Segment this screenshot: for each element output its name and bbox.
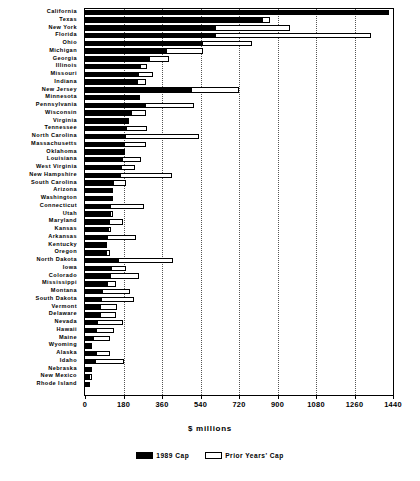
bar-segment-prior-years-cap: [96, 351, 110, 356]
bar-segment-1989-cap: [85, 33, 215, 38]
x-tick: [316, 396, 317, 399]
x-tick: [393, 396, 394, 399]
bar-segment-prior-years-cap: [202, 41, 252, 46]
bar-segment-1989-cap: [85, 320, 97, 325]
bar-segment-1989-cap: [85, 219, 109, 224]
bar-segment-1989-cap: [85, 87, 191, 92]
bar-segment-prior-years-cap: [262, 17, 270, 22]
category-label: New Hampshire: [0, 171, 80, 179]
bar-segment-prior-years-cap: [97, 320, 124, 325]
category-label: Maine: [0, 334, 80, 342]
bar-row: [85, 87, 393, 95]
x-tick-label: 1080: [307, 400, 325, 409]
category-label: Alaska: [0, 349, 80, 357]
bar-segment-prior-years-cap: [107, 281, 116, 286]
bar-segment-prior-years-cap: [120, 173, 172, 178]
category-label: Missouri: [0, 70, 80, 78]
bar-row: [85, 288, 393, 296]
bar-chart: CaliforniaTexasNew YorkFloridaOhioMichig…: [0, 0, 420, 481]
bar-segment-1989-cap: [85, 336, 93, 341]
bar-row: [85, 327, 393, 335]
category-label: Ohio: [0, 39, 80, 47]
x-tick: [355, 396, 356, 399]
plot-panel: [84, 8, 394, 396]
category-label: Maryland: [0, 217, 80, 225]
category-label: Wyoming: [0, 341, 80, 349]
category-label: Idaho: [0, 357, 80, 365]
bar-row: [85, 71, 393, 79]
category-label: Iowa: [0, 264, 80, 272]
bar-row: [85, 94, 393, 102]
bar-segment-1989-cap: [85, 343, 92, 348]
x-tick-label: 1260: [346, 400, 364, 409]
category-label: Oregon: [0, 248, 80, 256]
bar-row: [85, 195, 393, 203]
bar-segment-1989-cap: [85, 56, 149, 61]
bar-row: [85, 203, 393, 211]
x-tick-label: 180: [117, 400, 130, 409]
bar-row: [85, 335, 393, 343]
bar-segment-1989-cap: [85, 95, 140, 100]
bar-segment-prior-years-cap: [110, 204, 144, 209]
bar-row: [85, 180, 393, 188]
category-label: Rhode Island: [0, 380, 80, 388]
legend-item: Prior Years' Cap: [205, 452, 284, 459]
category-label: New York: [0, 24, 80, 32]
bar-row: [85, 358, 393, 366]
x-tick-label: 540: [194, 400, 207, 409]
legend-swatch-icon: [205, 452, 222, 459]
category-label: Wisconsin: [0, 109, 80, 117]
bar-segment-1989-cap: [85, 297, 101, 302]
bar-row: [85, 312, 393, 320]
bar-row: [85, 32, 393, 40]
plot-area-wrapper: CaliforniaTexasNew YorkFloridaOhioMichig…: [0, 0, 420, 420]
bar-row: [85, 350, 393, 358]
bar-row: [85, 296, 393, 304]
category-label: New Jersey: [0, 86, 80, 94]
bar-segment-1989-cap: [85, 328, 96, 333]
bar-row: [85, 79, 393, 87]
bar-segment-prior-years-cap: [127, 118, 129, 123]
bar-row: [85, 118, 393, 126]
category-label: Pennsylvania: [0, 101, 80, 109]
category-axis-labels: CaliforniaTexasNew YorkFloridaOhioMichig…: [0, 8, 80, 388]
bar-segment-prior-years-cap: [95, 359, 124, 364]
bar-segment-1989-cap: [85, 235, 107, 240]
category-label: South Dakota: [0, 295, 80, 303]
bar-segment-prior-years-cap: [191, 87, 239, 92]
bar-row: [85, 17, 393, 25]
category-label: Vermont: [0, 303, 80, 311]
bar-row: [85, 56, 393, 64]
bar-segment-prior-years-cap: [215, 33, 371, 38]
x-axis-title: $ millions: [0, 424, 420, 433]
chart-legend: 1989 CapPrior Years' Cap: [0, 452, 420, 459]
bar-row: [85, 164, 393, 172]
bar-row: [85, 25, 393, 33]
bar-segment-prior-years-cap: [122, 157, 141, 162]
x-tick-label: 1440: [384, 400, 402, 409]
bar-segment-prior-years-cap: [118, 258, 173, 263]
bar-series-container: [85, 9, 393, 395]
bar-segment-1989-cap: [85, 41, 202, 46]
category-label: Minnesota: [0, 93, 80, 101]
category-label: Oklahoma: [0, 148, 80, 156]
bar-segment-1989-cap: [85, 17, 262, 22]
bar-row: [85, 48, 393, 56]
bar-row: [85, 319, 393, 327]
category-label: Colorado: [0, 272, 80, 280]
bar-segment-prior-years-cap: [102, 289, 130, 294]
bar-segment-1989-cap: [85, 48, 166, 53]
bar-row: [85, 304, 393, 312]
bar-segment-1989-cap: [85, 64, 140, 69]
category-label: Massachusetts: [0, 140, 80, 148]
bar-row: [85, 110, 393, 118]
category-label: Hawaii: [0, 326, 80, 334]
bar-segment-1989-cap: [85, 10, 389, 15]
bar-segment-prior-years-cap: [106, 250, 111, 255]
bar-segment-1989-cap: [85, 273, 110, 278]
bar-segment-prior-years-cap: [107, 235, 136, 240]
bar-segment-prior-years-cap: [89, 374, 92, 379]
bar-row: [85, 366, 393, 374]
bar-segment-1989-cap: [85, 188, 111, 193]
bar-row: [85, 242, 393, 250]
